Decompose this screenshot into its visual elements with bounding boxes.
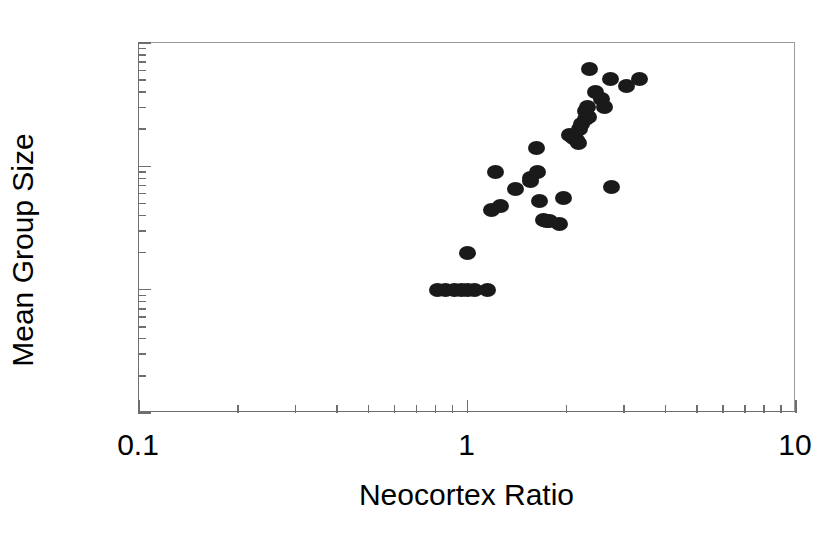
data-point [603,180,620,194]
plot-area [138,42,795,412]
y-axis-tick-labels: 0.1110100 [0,0,128,533]
x-tick-label: 0.1 [117,428,159,462]
data-points-layer [139,43,794,411]
data-point [483,203,500,217]
data-point [507,182,524,196]
data-point [596,100,613,114]
data-point [528,141,545,155]
data-point [555,191,572,205]
data-point [529,165,546,179]
data-point [479,283,496,297]
data-point [531,194,548,208]
x-axis-major-tick [795,400,797,413]
x-tick-label: 10 [778,428,811,462]
data-point [602,72,619,86]
scatter-plot-figure: Mean Group Size 0.1110100 0.1110 Neocort… [0,0,833,533]
data-point [459,246,476,260]
data-point [581,62,598,76]
data-point [631,72,648,86]
x-tick-label: 1 [458,428,475,462]
data-point [487,165,504,179]
data-point [551,217,568,231]
x-axis-title: Neocortex Ratio [138,478,795,512]
